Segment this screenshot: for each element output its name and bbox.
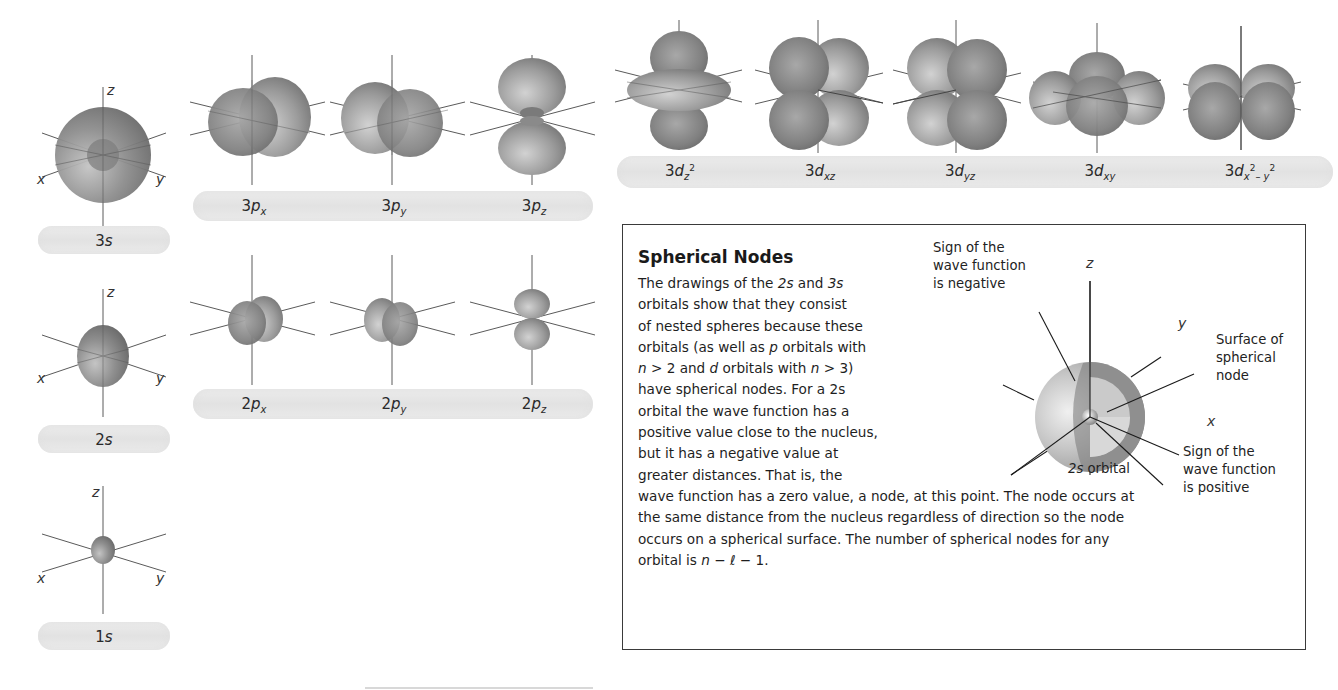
orbital-1s-diagram xyxy=(40,484,170,624)
orbital-3s-diagram xyxy=(40,85,170,245)
orbital-label-3pz: 3pz xyxy=(522,197,546,215)
orbital-2py-diagram xyxy=(330,255,470,390)
annotation-surface: Surface of spherical node xyxy=(1216,331,1283,385)
orbital-3dx2y2-diagram xyxy=(1173,18,1313,158)
axis-label-y: y xyxy=(156,171,164,187)
orbital-3dyz-diagram xyxy=(893,18,1023,158)
diagram-axis-z: z xyxy=(1086,255,1093,271)
orbital-label-3px: 3px xyxy=(242,197,267,215)
orbital-label-3dxz: 3dxz xyxy=(805,162,835,180)
orbital-label-2px: 2px xyxy=(242,395,267,413)
box-text-line: occurs on a spherical surface. The numbe… xyxy=(638,529,1288,550)
axis-label-z: z xyxy=(107,82,114,98)
orbital-3dxy-diagram xyxy=(1033,18,1173,158)
orbital-2s-diagram xyxy=(40,287,170,427)
diagram-axis-y: y xyxy=(1178,315,1186,331)
axis-label-x: x xyxy=(37,171,45,187)
axis-label-y: y xyxy=(156,370,164,386)
annotation-negative: Sign of the wave function is negative xyxy=(933,239,1026,293)
annotation-positive: Sign of the wave function is positive xyxy=(1183,443,1276,497)
diagram-axis-x: x xyxy=(1207,413,1215,429)
spherical-nodes-box: Spherical Nodes The drawings of the 2s a… xyxy=(622,224,1306,650)
orbital-label-3dz2: 3dz2 xyxy=(665,162,695,180)
axis-label-z: z xyxy=(107,284,114,300)
orbital-3dz2-diagram xyxy=(615,18,745,158)
orbital-label-3s: 3s xyxy=(95,232,112,250)
orbital-3py-diagram xyxy=(330,55,470,190)
bottom-rule xyxy=(365,687,593,689)
orbital-3dxz-diagram xyxy=(755,18,885,158)
box-title: Spherical Nodes xyxy=(638,247,793,267)
orbital-label-3dx2y2: 3dx2– y2 xyxy=(1225,162,1276,180)
orbital-3px-diagram xyxy=(190,55,330,190)
axis-label-x: x xyxy=(37,370,45,386)
box-text-line: orbital is n − ℓ − 1. xyxy=(638,550,1288,571)
orbital-label-3dxy: 3dxy xyxy=(1085,162,1116,180)
orbital-label-3py: 3py xyxy=(382,197,407,215)
axis-label-y: y xyxy=(156,570,164,586)
diagram-caption: 2s orbital xyxy=(1068,460,1130,478)
orbital-3pz-diagram xyxy=(470,55,610,190)
orbital-label-1s: 1s xyxy=(95,628,112,646)
orbital-label-2py: 2py xyxy=(382,395,407,413)
orbital-2px-diagram xyxy=(190,255,330,390)
orbital-label-2pz: 2pz xyxy=(522,395,546,413)
orbital-label-2s: 2s xyxy=(95,431,112,449)
orbital-2pz-diagram xyxy=(470,255,610,390)
orbital-label-3dyz: 3dyz xyxy=(945,162,975,180)
axis-label-x: x xyxy=(37,570,45,586)
axis-label-z: z xyxy=(92,484,99,500)
